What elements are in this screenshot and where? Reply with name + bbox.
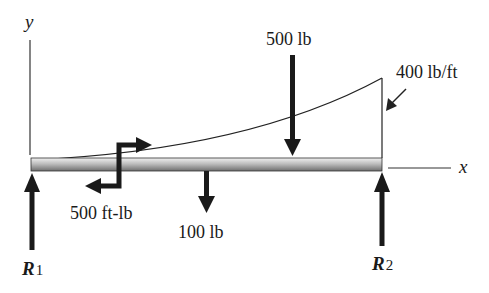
- distributed-load: 400 lb/ft: [31, 62, 458, 160]
- distributed-load-label: 400 lb/ft: [396, 62, 458, 82]
- reaction-r2-arrow: R2: [371, 172, 393, 274]
- point-load-500lb-label: 500 lb: [266, 29, 312, 49]
- point-load-100lb-label: 100 lb: [178, 222, 224, 242]
- x-axis-label: x: [458, 156, 468, 177]
- reaction-r2-label: R2: [371, 253, 393, 274]
- reaction-r1-arrow: R1: [21, 173, 43, 279]
- couple-moment-icon: 500 ft-lb: [70, 137, 152, 223]
- reaction-r1-label: R1: [21, 258, 43, 279]
- y-axis-label: y: [23, 11, 34, 32]
- x-axis: x: [388, 156, 468, 177]
- distributed-load-pointer-arrow: [386, 89, 406, 111]
- y-axis: y: [23, 11, 34, 155]
- couple-moment-label: 500 ft-lb: [70, 203, 133, 223]
- beam: [31, 158, 382, 171]
- beam-diagram: y x 400 lb/ft 500 lb 100 lb 500 ft-lb: [0, 0, 489, 293]
- point-load-100lb-arrow: 100 lb: [178, 171, 224, 242]
- point-load-500lb-arrow: 500 lb: [266, 29, 312, 156]
